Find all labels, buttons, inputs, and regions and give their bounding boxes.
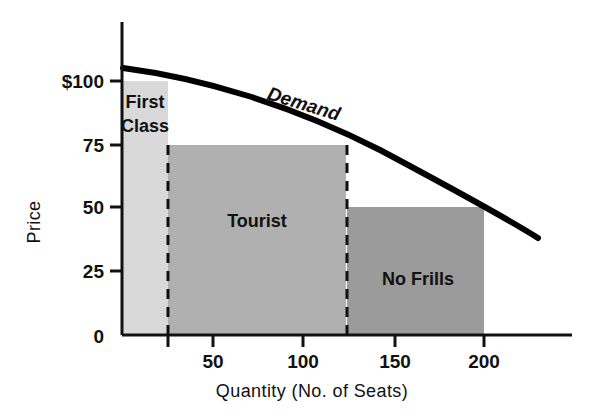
block-label-no-frills: No Frills <box>382 269 454 289</box>
x-axis-title: Quantity (No. of Seats) <box>216 381 408 401</box>
x-tick-label-200: 200 <box>468 351 500 372</box>
block-label-first-class-line2: Class <box>121 116 169 136</box>
y-axis-title: Price <box>24 200 44 243</box>
x-tick-label-150: 150 <box>379 351 411 372</box>
y-tick-label-100: $100 <box>62 71 104 92</box>
block-tourist <box>168 145 346 335</box>
y-tick-label-25: 25 <box>83 261 105 282</box>
y-tick-label-75: 75 <box>83 135 105 156</box>
demand-curve-chart: $100 75 50 25 0 50 100 150 200 Price Qua… <box>0 0 599 418</box>
block-label-first-class-line1: First <box>125 92 164 112</box>
block-label-tourist: Tourist <box>227 211 287 231</box>
chart-figure: $100 75 50 25 0 50 100 150 200 Price Qua… <box>0 0 599 418</box>
y-tick-label-50: 50 <box>83 197 104 218</box>
y-tick-label-0: 0 <box>93 326 104 347</box>
x-tick-label-100: 100 <box>287 351 319 372</box>
x-tick-label-50: 50 <box>202 351 223 372</box>
